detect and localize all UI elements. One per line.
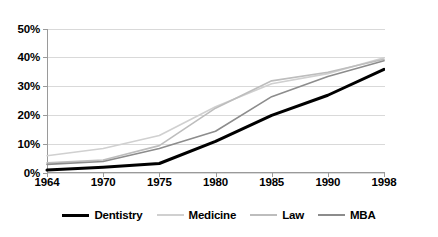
legend-item-medicine[interactable]: Medicine [157, 209, 237, 221]
x-tick-label: 1980 [203, 176, 228, 188]
legend-label: Law [282, 209, 304, 221]
y-tick-label: 20% [0, 109, 40, 122]
line-chart: 0%10%20%30%40%50% 1964197019751980198519… [0, 0, 438, 237]
y-tick-label: 10% [0, 138, 40, 151]
x-tick-label: 1990 [315, 176, 340, 188]
x-tick-label: 1998 [372, 176, 397, 188]
y-tick-label: 30% [0, 80, 40, 93]
chart-legend: DentistryMedicineLawMBA [0, 203, 438, 227]
series-line-dentistry [47, 69, 384, 170]
legend-item-mba[interactable]: MBA [318, 209, 376, 221]
x-tick-label: 1985 [259, 176, 284, 188]
x-tick-label: 1975 [147, 176, 172, 188]
y-tick-label: 50% [0, 23, 40, 36]
legend-item-dentistry[interactable]: Dentistry [62, 209, 142, 221]
legend-label: Dentistry [94, 209, 142, 221]
legend-label: Medicine [189, 209, 237, 221]
x-tick-label: 1964 [35, 176, 60, 188]
legend-swatch-dentistry [62, 214, 89, 217]
legend-swatch-law [250, 214, 277, 216]
legend-swatch-mba [318, 214, 345, 216]
y-tick-label: 40% [0, 51, 40, 64]
x-tick-label: 1970 [91, 176, 116, 188]
legend-swatch-medicine [157, 214, 184, 216]
legend-item-law[interactable]: Law [250, 209, 304, 221]
y-axis: 0%10%20%30%40%50% [0, 20, 44, 182]
plot-svg [42, 29, 385, 178]
legend-label: MBA [350, 209, 376, 221]
plot-area [47, 29, 385, 173]
x-axis: 1964197019751980198519901998 [47, 176, 385, 196]
